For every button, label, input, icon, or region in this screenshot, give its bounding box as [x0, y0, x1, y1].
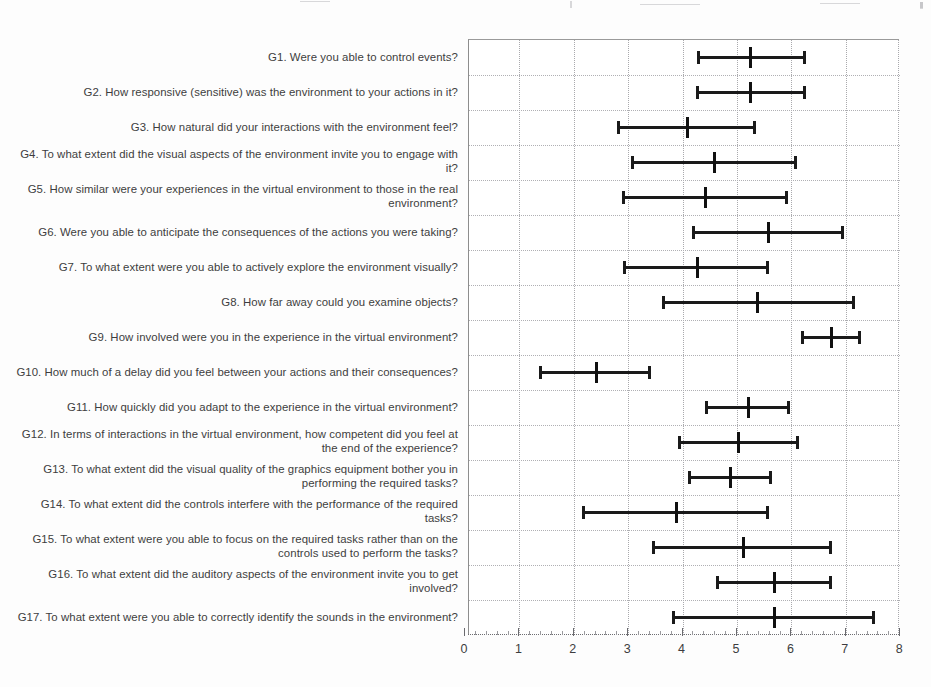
axis-minor-tick: [856, 631, 857, 635]
interval-row: [469, 390, 900, 425]
upper-cap: [803, 86, 806, 99]
lower-cap: [801, 331, 804, 344]
interval-row: [469, 565, 900, 600]
interval-row: [469, 320, 900, 355]
question-label-g15: G15. To what extent were you able to foc…: [6, 532, 458, 561]
median-tick: [742, 537, 745, 558]
question-label-g4: G4. To what extent did the visual aspect…: [6, 147, 458, 176]
question-label-g7: G7. To what extent were you able to acti…: [6, 260, 458, 274]
median-tick: [749, 47, 752, 68]
upper-cap: [803, 51, 806, 64]
scan-speck: [640, 4, 700, 5]
axis-minor-tick: [529, 631, 530, 635]
interval-row: [469, 110, 900, 145]
axis-minor-tick: [562, 631, 563, 635]
question-label-g13: G13. To what extent did the visual quali…: [6, 462, 458, 491]
interval-row: [469, 40, 900, 75]
median-tick: [696, 257, 699, 278]
median-tick: [595, 362, 598, 383]
question-label-g12: G12. In terms of interactions in the vir…: [6, 427, 458, 456]
axis-tick-label-2: 2: [558, 642, 588, 656]
question-label-g8: G8. How far away could you examine objec…: [6, 295, 458, 309]
lower-cap: [622, 191, 625, 204]
question-label-g16: G16. To what extent did the auditory asp…: [6, 567, 458, 596]
median-tick: [737, 432, 740, 453]
upper-cap: [753, 121, 756, 134]
upper-cap: [852, 296, 855, 309]
question-label-g1: G1. Were you able to control events?: [6, 50, 458, 64]
lower-cap: [692, 226, 695, 239]
axis-minor-tick: [497, 631, 498, 635]
axis-minor-tick: [638, 631, 639, 635]
interval-row: [469, 495, 900, 530]
median-tick: [704, 187, 707, 208]
interval-row: [469, 215, 900, 250]
axis-tick-2: [573, 628, 574, 636]
axis-minor-tick: [692, 631, 693, 635]
question-label-g3: G3. How natural did your interactions wi…: [6, 120, 458, 134]
question-label-column: G1. Were you able to control events?G2. …: [0, 39, 462, 634]
lower-cap: [697, 51, 700, 64]
lower-cap: [539, 366, 542, 379]
axis-tick-5: [736, 628, 737, 636]
question-label-g2: G2. How responsive (sensitive) was the e…: [6, 85, 458, 99]
interval-row: [469, 250, 900, 285]
axis-minor-tick: [801, 631, 802, 635]
upper-cap: [858, 331, 861, 344]
axis-minor-tick: [486, 631, 487, 635]
median-tick: [773, 607, 776, 628]
question-label-g6: G6. Were you able to anticipate the cons…: [6, 225, 458, 239]
upper-cap: [769, 471, 772, 484]
axis-tick-label-6: 6: [775, 642, 805, 656]
median-tick: [749, 82, 752, 103]
median-tick: [729, 467, 732, 488]
axis-minor-tick: [703, 631, 704, 635]
axis-minor-tick: [605, 631, 606, 635]
axis-tick-1: [518, 628, 519, 636]
interval-row: [469, 460, 900, 495]
scan-speck: [920, 2, 923, 9]
plot-area: [468, 39, 899, 634]
upper-cap: [794, 156, 797, 169]
axis-minor-tick: [649, 631, 650, 635]
scan-speck: [300, 1, 330, 2]
axis-minor-tick: [508, 631, 509, 635]
axis-minor-tick: [540, 631, 541, 635]
lower-cap: [582, 506, 585, 519]
median-tick: [686, 117, 689, 138]
upper-cap: [785, 191, 788, 204]
interval-row: [469, 145, 900, 180]
upper-cap: [766, 506, 769, 519]
axis-minor-tick: [867, 631, 868, 635]
lower-cap: [662, 296, 665, 309]
interval-row: [469, 600, 900, 635]
axis-minor-tick: [823, 631, 824, 635]
upper-cap: [766, 261, 769, 274]
axis-tick-3: [627, 628, 628, 636]
axis-tick-4: [682, 628, 683, 636]
axis-minor-tick: [888, 631, 889, 635]
axis-minor-tick: [812, 631, 813, 635]
interval-row: [469, 75, 900, 110]
lower-cap: [617, 121, 620, 134]
axis-tick-7: [845, 628, 846, 636]
presence-questionnaire-chart: G1. Were you able to control events?G2. …: [0, 0, 931, 687]
axis-minor-tick: [616, 631, 617, 635]
median-tick: [675, 502, 678, 523]
axis-minor-tick: [551, 631, 552, 635]
median-tick: [767, 222, 770, 243]
axis-tick-8: [899, 628, 900, 636]
question-label-g17: G17. To what extent were you able to cor…: [6, 610, 458, 624]
axis-minor-tick: [671, 631, 672, 635]
question-label-g11: G11. How quickly did you adapt to the ex…: [6, 400, 458, 414]
question-label-g9: G9. How involved were you in the experie…: [6, 330, 458, 344]
median-tick: [773, 572, 776, 593]
lower-cap: [672, 611, 675, 624]
lower-cap: [716, 576, 719, 589]
axis-minor-tick: [660, 631, 661, 635]
question-label-g14: G14. To what extent did the controls int…: [6, 497, 458, 526]
axis-minor-tick: [769, 631, 770, 635]
lower-cap: [678, 436, 681, 449]
scan-speck: [820, 3, 860, 4]
upper-cap: [648, 366, 651, 379]
